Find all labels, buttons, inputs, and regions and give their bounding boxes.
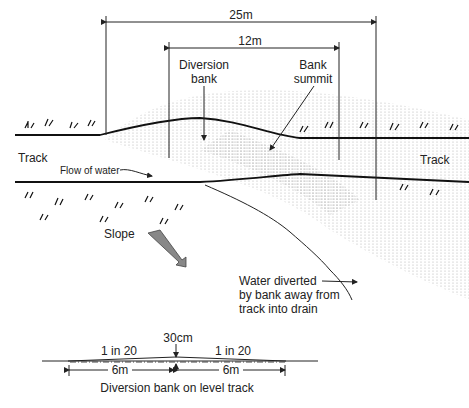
slope-arrow — [148, 230, 186, 267]
diversion-bank-diagram: 25m 12m Diversion bank Bank summit Track… — [0, 0, 469, 408]
half-width-left-label: 6m — [112, 363, 129, 377]
gradient-left-label: 1 in 20 — [101, 344, 137, 358]
dimension-12m-label: 12m — [238, 34, 261, 48]
diversion-bank-label-line1: Diversion — [179, 58, 229, 72]
water-diverted-arrow — [322, 281, 357, 282]
diversion-bank-label-line2: bank — [191, 72, 218, 86]
water-diverted-label-line1: Water diverted — [239, 274, 317, 288]
track-label-right: Track — [420, 153, 451, 167]
gradient-right-label: 1 in 20 — [215, 344, 251, 358]
water-diverted-label-line2: by bank away from — [239, 288, 340, 302]
slope-label: Slope — [104, 227, 135, 241]
track-label-left: Track — [18, 151, 49, 165]
half-width-right-label: 6m — [223, 363, 240, 377]
flow-arrow — [120, 170, 152, 176]
bank-summit-label-line1: Bank — [299, 58, 327, 72]
dimension-25m-label: 25m — [229, 8, 252, 22]
bank-summit-label-line2: summit — [294, 72, 333, 86]
water-diverted-label-line3: track into drain — [239, 302, 318, 316]
flow-of-water-label: Flow of water — [60, 165, 120, 176]
height-30cm-label: 30cm — [163, 331, 192, 345]
cross-section — [42, 344, 318, 376]
cross-section-caption: Diversion bank on level track — [100, 381, 254, 395]
